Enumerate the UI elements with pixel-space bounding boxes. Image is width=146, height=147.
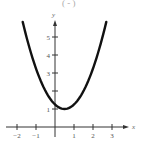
- x-tick-label: −2: [13, 132, 21, 140]
- y-axis-arrow-icon: [53, 20, 57, 26]
- y-axis: 1345 y: [47, 11, 59, 137]
- y-tick-label: 4: [47, 52, 51, 60]
- x-tick-label: −1: [32, 132, 40, 140]
- y-axis-label: y: [51, 11, 56, 19]
- y-tick-label: 5: [47, 34, 51, 42]
- y-tick-label: 3: [47, 70, 51, 78]
- x-axis: −2−1123 x: [6, 123, 136, 140]
- x-axis-label: x: [131, 123, 136, 131]
- chart-canvas: ( - ) −2−1123 x 1345 y: [0, 0, 146, 147]
- x-tick-label: 2: [91, 132, 95, 140]
- y-tick-label: 1: [47, 106, 51, 114]
- x-axis-arrow-icon: [123, 125, 129, 129]
- parabola-curve: [23, 22, 107, 109]
- title-fragment: ( - ): [62, 0, 76, 8]
- x-tick-label: 3: [110, 132, 114, 140]
- x-tick-label: 1: [72, 132, 76, 140]
